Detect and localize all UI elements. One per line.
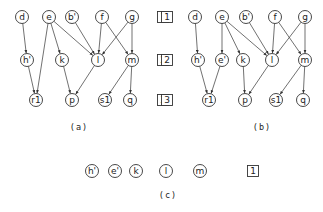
caption-b: (b) bbox=[253, 122, 271, 132]
edge-e-to-k bbox=[51, 23, 60, 53]
level-label: 1 bbox=[250, 166, 256, 176]
node-k: k bbox=[237, 54, 250, 67]
node-label: k bbox=[59, 55, 65, 65]
node-s1: s1 bbox=[270, 94, 283, 107]
level-box-3: 3 bbox=[162, 95, 173, 106]
node-q: q bbox=[124, 94, 137, 107]
node-r1: r1 bbox=[30, 94, 43, 107]
node-e: e bbox=[43, 11, 56, 24]
node-label: b' bbox=[242, 12, 250, 22]
caption-c: (c) bbox=[159, 190, 177, 200]
node-l: l bbox=[92, 54, 105, 67]
node-m: m bbox=[299, 54, 312, 67]
node-e: e bbox=[216, 11, 229, 24]
node-label: d bbox=[19, 12, 25, 22]
node-e-prime: e' bbox=[216, 54, 229, 67]
node-p: p bbox=[66, 94, 79, 107]
edge-h-prime-to-r1 bbox=[200, 66, 207, 93]
edge-b-prime-to-l bbox=[249, 23, 268, 54]
node-label: h' bbox=[194, 55, 202, 65]
node-label: e bbox=[46, 12, 52, 22]
node-label: e' bbox=[111, 166, 119, 176]
edge-k-to-p bbox=[243, 66, 244, 93]
edge-l-to-p bbox=[76, 65, 95, 94]
node-k: k bbox=[56, 54, 69, 67]
node-m: m bbox=[194, 165, 207, 178]
node-label: q bbox=[300, 95, 306, 105]
node-h-prime: h' bbox=[86, 165, 99, 178]
node-label: m bbox=[301, 55, 310, 65]
edge-g-to-l bbox=[102, 22, 128, 54]
node-label: p bbox=[69, 95, 75, 105]
node-label: l bbox=[97, 55, 100, 65]
edge-e-to-r1 bbox=[37, 23, 48, 93]
node-e-prime: e' bbox=[109, 165, 122, 178]
node-label: k bbox=[133, 166, 139, 176]
level-label: 1 bbox=[164, 12, 170, 22]
node-label: l bbox=[271, 55, 274, 65]
edge-l-to-p bbox=[249, 65, 268, 94]
edge-m-to-q bbox=[303, 66, 304, 93]
node-label: m bbox=[128, 55, 137, 65]
panel-b: deb'fgh'e'klmr1ps1q123(b) bbox=[162, 11, 312, 133]
node-k: k bbox=[130, 165, 143, 178]
node-label: k bbox=[240, 55, 246, 65]
level-box-1: 1 bbox=[248, 166, 259, 177]
node-p: p bbox=[239, 94, 252, 107]
node-label: r1 bbox=[204, 95, 213, 105]
edge-m-to-q bbox=[130, 66, 131, 93]
node-f: f bbox=[96, 11, 109, 24]
edge-d-to-h-prime bbox=[23, 23, 26, 53]
edge-h-prime-to-r1 bbox=[28, 66, 34, 93]
node-label: e bbox=[219, 12, 225, 22]
node-h-prime: h' bbox=[192, 54, 205, 67]
node-d: d bbox=[189, 11, 202, 24]
level-label: 3 bbox=[164, 95, 170, 105]
level-label: 2 bbox=[164, 55, 170, 65]
node-label: q bbox=[127, 95, 133, 105]
level-box-1: 1 bbox=[162, 12, 173, 23]
edge-e-to-l bbox=[227, 21, 267, 55]
panel-c: h'e'klm1(c) bbox=[86, 165, 259, 201]
node-label: r1 bbox=[31, 95, 40, 105]
node-label: e' bbox=[218, 55, 226, 65]
node-label: g bbox=[129, 12, 135, 22]
edge-k-to-p bbox=[64, 66, 71, 93]
node-label: h' bbox=[88, 166, 96, 176]
edge-b-prime-to-l bbox=[75, 23, 94, 54]
node-b-prime: b' bbox=[240, 11, 253, 24]
edge-f-to-l bbox=[99, 23, 102, 53]
diagram-canvas: deb'fgh'klmr1ps1q123(a) deb'fgh'e'klmr1p… bbox=[0, 0, 323, 212]
node-label: b' bbox=[68, 12, 76, 22]
node-l: l bbox=[160, 165, 173, 178]
node-label: s1 bbox=[271, 95, 281, 105]
edge-d-to-h-prime bbox=[195, 23, 197, 53]
panel-a: deb'fgh'klmr1ps1q123(a) bbox=[16, 11, 169, 133]
level-box-2: 2 bbox=[162, 55, 173, 66]
node-d: d bbox=[16, 11, 29, 24]
edge-f-to-l bbox=[272, 23, 274, 53]
edge-e-to-k bbox=[225, 23, 240, 54]
node-f: f bbox=[269, 11, 282, 24]
node-label: p bbox=[242, 95, 248, 105]
node-label: s1 bbox=[100, 95, 110, 105]
node-b-prime: b' bbox=[66, 11, 79, 24]
node-label: h' bbox=[23, 55, 31, 65]
node-label: l bbox=[165, 166, 168, 176]
edge-e-to-l bbox=[54, 21, 93, 55]
node-m: m bbox=[126, 54, 139, 67]
edge-e-prime-to-r1 bbox=[211, 66, 220, 93]
node-h-prime: h' bbox=[21, 54, 34, 67]
node-l: l bbox=[266, 54, 279, 67]
node-s1: s1 bbox=[99, 94, 112, 107]
node-g: g bbox=[299, 11, 312, 24]
edge-m-to-s1 bbox=[109, 65, 128, 94]
node-q: q bbox=[297, 94, 310, 107]
caption-a: (a) bbox=[70, 122, 88, 132]
node-label: d bbox=[192, 12, 198, 22]
node-label: m bbox=[196, 166, 205, 176]
edge-f-to-m bbox=[106, 22, 128, 54]
node-g: g bbox=[126, 11, 139, 24]
node-label: g bbox=[302, 12, 308, 22]
edge-m-to-s1 bbox=[280, 65, 301, 94]
